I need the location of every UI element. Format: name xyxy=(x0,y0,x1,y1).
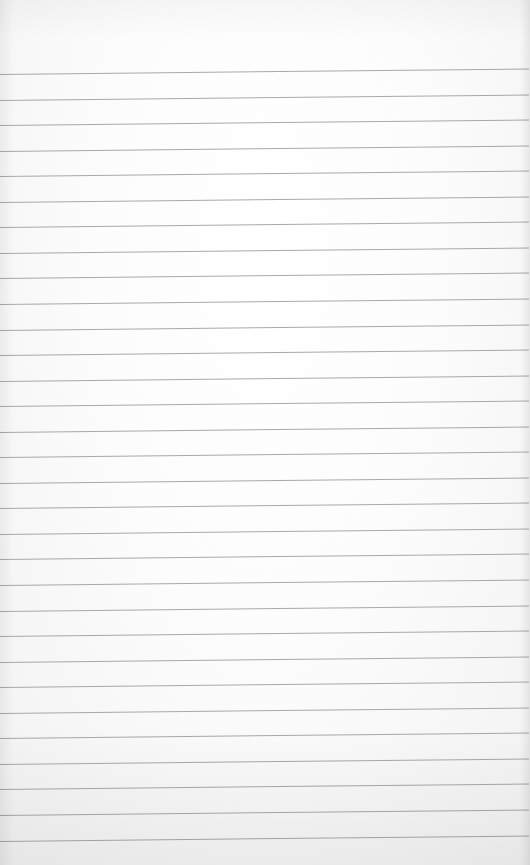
ruled-line xyxy=(0,247,529,254)
ruled-line xyxy=(0,809,529,816)
ruled-line xyxy=(0,273,529,280)
ruled-line xyxy=(0,503,529,510)
ruled-line xyxy=(0,196,529,203)
ruled-line xyxy=(0,733,529,740)
ruled-line xyxy=(0,68,529,75)
ruled-line xyxy=(0,350,529,357)
ruled-line xyxy=(0,401,529,408)
ruled-line xyxy=(0,784,529,791)
ruled-line xyxy=(0,631,529,638)
ruled-line xyxy=(0,605,529,612)
ruled-line xyxy=(0,145,529,152)
ruled-line xyxy=(0,656,529,663)
ruled-line xyxy=(0,554,529,561)
ruled-line xyxy=(0,171,529,178)
ruled-line xyxy=(0,452,529,459)
ruled-line xyxy=(0,758,529,765)
ruled-line xyxy=(0,375,529,382)
ruled-line xyxy=(0,222,529,229)
ruled-line xyxy=(0,426,529,433)
ruled-lines xyxy=(0,0,530,865)
ruled-line xyxy=(0,579,529,586)
ruled-line xyxy=(0,120,529,127)
ruled-line xyxy=(0,528,529,535)
notepad-paper xyxy=(0,0,530,865)
ruled-line xyxy=(0,298,529,305)
ruled-line xyxy=(0,835,529,842)
ruled-line xyxy=(0,324,529,331)
ruled-line xyxy=(0,477,529,484)
ruled-line xyxy=(0,94,529,101)
ruled-line xyxy=(0,707,529,714)
ruled-line xyxy=(0,682,529,689)
